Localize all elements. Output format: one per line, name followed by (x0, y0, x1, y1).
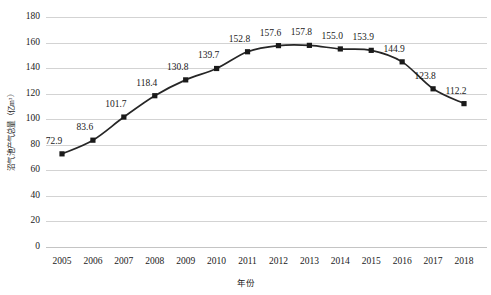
data-point-marker-2013 (307, 43, 312, 48)
data-label-2007: 101.7 (105, 100, 126, 110)
data-label-2014: 155.0 (322, 31, 343, 41)
data-point-marker-2008 (152, 93, 157, 98)
data-label-2017: 123.8 (414, 71, 435, 81)
data-label-2009: 130.8 (167, 62, 188, 72)
data-point-marker-2018 (461, 101, 466, 106)
data-point-marker-2011 (245, 49, 250, 54)
x-tick-label-2011: 2011 (238, 257, 257, 267)
data-point-marker-2007 (121, 114, 126, 119)
data-label-2010: 139.7 (198, 51, 219, 61)
x-tick-label-2009: 2009 (176, 257, 195, 267)
data-point-marker-2015 (369, 48, 374, 53)
x-axis-title: 年份 (0, 276, 491, 288)
data-point-marker-2010 (214, 66, 219, 71)
plot-area (0, 0, 491, 295)
x-tick-label-2005: 2005 (53, 257, 72, 267)
x-tick-label-2007: 2007 (114, 257, 133, 267)
x-tick-label-2013: 2013 (300, 257, 319, 267)
data-label-2016: 144.9 (383, 44, 404, 54)
chart-container: 沼气池产气总量（亿m³） 020406080100120140160180 72… (0, 0, 491, 295)
x-tick-label-2008: 2008 (145, 257, 164, 267)
data-point-marker-2009 (183, 77, 188, 82)
data-point-marker-2005 (59, 151, 64, 156)
x-tick-label-2015: 2015 (362, 257, 381, 267)
x-tick-label-2012: 2012 (269, 257, 288, 267)
data-label-2013: 157.8 (291, 28, 312, 38)
x-tick-label-2018: 2018 (455, 257, 474, 267)
data-point-marker-2014 (338, 46, 343, 51)
data-point-marker-2006 (90, 138, 95, 143)
data-point-marker-2012 (276, 43, 281, 48)
x-tick-label-2014: 2014 (331, 257, 350, 267)
x-tick-label-2006: 2006 (83, 257, 102, 267)
data-label-2018: 112.2 (445, 86, 466, 96)
x-tick-label-2016: 2016 (393, 257, 412, 267)
x-axis-title-text: 年份 (237, 278, 255, 288)
data-point-marker-2016 (400, 59, 405, 64)
data-label-2005: 72.9 (46, 136, 63, 146)
x-tick-label-2017: 2017 (424, 257, 443, 267)
data-label-2008: 118.4 (136, 78, 157, 88)
data-label-2012: 157.6 (260, 28, 281, 38)
x-tick-label-2010: 2010 (207, 257, 226, 267)
data-point-marker-2017 (430, 86, 435, 91)
data-label-2011: 152.8 (229, 34, 250, 44)
data-label-2015: 153.9 (353, 33, 374, 43)
data-label-2006: 83.6 (77, 123, 94, 133)
